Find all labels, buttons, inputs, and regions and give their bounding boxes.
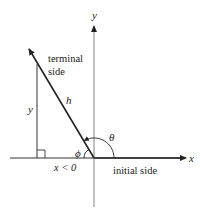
horizontal-leg-label: x < 0	[53, 162, 77, 173]
terminal-side-diagram: y x terminal side h y ϕ θ x < 0 initial …	[0, 0, 200, 214]
hypotenuse-label: h	[66, 94, 72, 106]
phi-arc	[84, 149, 89, 158]
right-angle-marker	[37, 150, 45, 158]
theta-label: θ	[109, 131, 115, 143]
vertical-leg-label: y	[27, 103, 33, 115]
terminal-label: terminal	[48, 53, 83, 64]
y-axis-label: y	[91, 9, 97, 21]
side-label: side	[48, 66, 65, 77]
x-axis-label: x	[188, 152, 194, 164]
initial-side-label: initial side	[113, 165, 157, 176]
phi-label: ϕ	[75, 147, 81, 159]
